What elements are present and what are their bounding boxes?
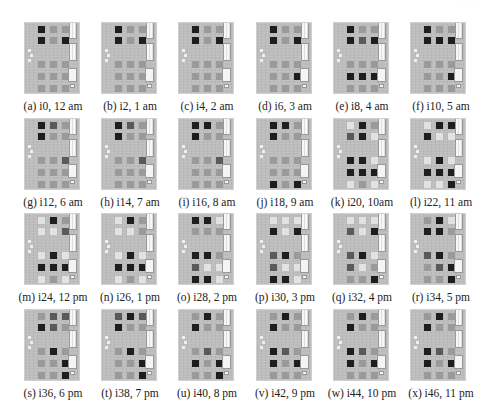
- marker-dot: [28, 250, 31, 253]
- corridor-bar: [300, 259, 309, 273]
- room-square: [294, 26, 301, 33]
- room-square: [436, 313, 443, 320]
- marker-dot: [105, 49, 108, 52]
- room-square: [424, 122, 431, 129]
- room-square: [50, 228, 57, 235]
- corridor-bar: [147, 371, 152, 375]
- room-square: [282, 157, 289, 164]
- room-square: [359, 228, 366, 235]
- corridor-bar: [223, 234, 231, 252]
- room-square: [127, 217, 134, 224]
- marker-dot: [30, 341, 33, 344]
- room-square: [204, 264, 211, 271]
- room-square: [347, 122, 354, 129]
- room-square: [50, 252, 57, 259]
- room-square: [359, 324, 366, 331]
- room-square: [371, 133, 378, 140]
- room-square: [50, 217, 57, 224]
- floorplan-thumbnail: [178, 309, 234, 381]
- room-square: [294, 252, 301, 259]
- room-square: [371, 85, 378, 92]
- room-square: [204, 73, 211, 80]
- room-square: [115, 217, 122, 224]
- room-square: [424, 264, 431, 271]
- marker-dot: [414, 240, 417, 243]
- room-square: [371, 372, 378, 379]
- marker-dot: [337, 240, 340, 243]
- corridor-bar: [300, 355, 309, 369]
- floorplan-thumbnail: [178, 118, 234, 190]
- floorplan-thumbnail: [410, 118, 466, 190]
- room-square: [436, 360, 443, 367]
- room-square: [50, 276, 57, 283]
- marker-dot: [107, 54, 110, 57]
- room-square: [38, 73, 45, 80]
- room-square: [347, 26, 354, 33]
- room-square: [371, 37, 378, 44]
- marker-dot: [182, 59, 185, 62]
- room-square: [192, 276, 199, 283]
- room-square: [115, 73, 122, 80]
- marker-dot: [105, 240, 108, 243]
- room-square: [347, 313, 354, 320]
- corridor-bar: [300, 164, 309, 178]
- room-square: [294, 37, 301, 44]
- floorplan-thumbnail: [24, 213, 80, 285]
- room-square: [50, 372, 57, 379]
- room-square: [204, 217, 211, 224]
- room-square: [192, 37, 199, 44]
- room-square: [38, 313, 45, 320]
- room-square: [38, 26, 45, 33]
- room-square: [448, 37, 455, 44]
- room-square: [270, 37, 277, 44]
- room-square: [62, 37, 69, 44]
- room-square: [294, 85, 301, 92]
- room-square: [50, 73, 57, 80]
- room-square: [139, 372, 146, 379]
- room-square: [282, 348, 289, 355]
- room-square: [448, 26, 455, 33]
- marker-dot: [337, 250, 340, 253]
- marker-dot: [414, 145, 417, 148]
- room-square: [448, 157, 455, 164]
- corridor-bar: [222, 164, 231, 178]
- room-square: [50, 122, 57, 129]
- room-square: [294, 372, 301, 379]
- corridor-bar: [147, 84, 152, 88]
- room-square: [359, 37, 366, 44]
- room-square: [192, 313, 199, 320]
- room-square: [371, 217, 378, 224]
- room-square: [204, 324, 211, 331]
- corridor-bar: [301, 330, 309, 348]
- room-square: [424, 169, 431, 176]
- room-square: [115, 324, 122, 331]
- room-square: [347, 348, 354, 355]
- room-square: [347, 217, 354, 224]
- room-square: [50, 324, 57, 331]
- corridor-bar: [146, 118, 154, 135]
- floorplan-thumbnail: [256, 213, 312, 285]
- marker-dot: [28, 145, 31, 148]
- room-square: [282, 61, 289, 68]
- panel-caption: (w) i44, 10 pm: [323, 387, 401, 399]
- room-square: [38, 181, 45, 188]
- marker-dot: [414, 155, 417, 158]
- room-square: [436, 169, 443, 176]
- floorplan-thumbnail: [410, 22, 466, 94]
- marker-dot: [28, 49, 31, 52]
- room-square: [204, 169, 211, 176]
- room-square: [270, 157, 277, 164]
- room-square: [139, 348, 146, 355]
- room-square: [127, 122, 134, 129]
- room-square: [62, 85, 69, 92]
- marker-dot: [107, 150, 110, 153]
- room-square: [436, 122, 443, 129]
- room-square: [359, 85, 366, 92]
- floorplan-thumbnail: [24, 118, 80, 190]
- room-square: [204, 360, 211, 367]
- room-square: [359, 217, 366, 224]
- panel-caption: (m) i24, 12 pm: [14, 291, 92, 303]
- panel-caption: (v) i42, 9 pm: [246, 387, 324, 399]
- panel-caption: (s) i36, 6 pm: [14, 387, 92, 399]
- corridor-bar: [455, 309, 463, 326]
